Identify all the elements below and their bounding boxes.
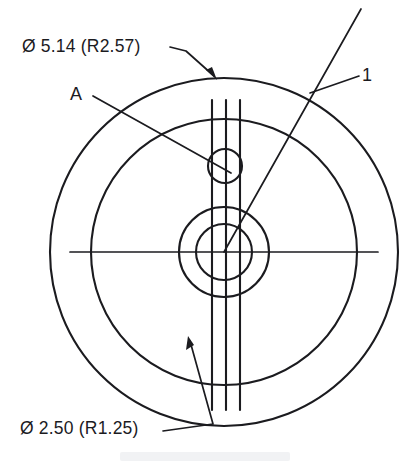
section-cut-line [224, 9, 361, 252]
detail-a-leader-line [93, 96, 231, 173]
scan-artifact [120, 452, 290, 461]
item-number-label: 1 [362, 66, 372, 84]
outer-diameter-leader-line [170, 47, 214, 76]
technical-drawing-canvas: Ø 5.14 (R2.57) Ø 2.50 (R1.25) A 1 [0, 0, 414, 470]
item-1-leader-line [310, 76, 359, 93]
detail-a-label: A [70, 85, 82, 103]
inner-diameter-arrowhead [186, 336, 194, 350]
drawing-geometry [0, 0, 414, 470]
outer-diameter-label: Ø 5.14 (R2.57) [22, 38, 141, 56]
inner-diameter-label: Ø 2.50 (R1.25) [20, 420, 139, 438]
